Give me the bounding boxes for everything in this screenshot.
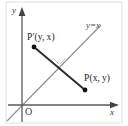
point-label-p-prime: P′(y, x) xyxy=(27,33,55,43)
y-axis-label: y xyxy=(12,6,16,15)
point-marker-p xyxy=(83,88,88,93)
figure-canvas: y x O y=x P′(y, x) P(x, y) xyxy=(0,0,128,126)
origin-label: O xyxy=(25,107,32,117)
mirror-line-label: y=x xyxy=(86,21,100,30)
x-axis-label: x xyxy=(110,108,114,117)
point-label-p: P(x, y) xyxy=(84,74,110,84)
point-marker-p-prime xyxy=(32,45,37,50)
diagram-svg xyxy=(0,0,128,126)
segment-p-prime-to-p xyxy=(34,47,85,90)
